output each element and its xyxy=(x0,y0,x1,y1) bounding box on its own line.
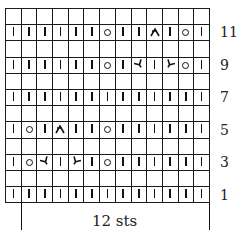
chart-cell xyxy=(194,154,210,170)
knit-stitch-icon xyxy=(75,27,77,36)
chart-cell xyxy=(162,154,178,170)
chart-cell xyxy=(21,89,37,105)
chart-cell xyxy=(53,73,69,89)
double-decrease-icon xyxy=(150,27,160,40)
knit-stitch-icon xyxy=(60,157,62,166)
knit-stitch-icon xyxy=(91,92,93,101)
chart-cell xyxy=(178,138,194,154)
knit-stitch-icon xyxy=(201,189,203,198)
row-number-label: 5 xyxy=(220,122,229,138)
chart-cell xyxy=(162,89,178,105)
chart-cell xyxy=(115,41,131,57)
chart-cell xyxy=(194,138,210,154)
chart-row xyxy=(6,138,210,154)
knit-stitch-icon xyxy=(201,157,203,166)
chart-cell xyxy=(6,106,22,122)
knit-stitch-icon xyxy=(60,27,62,36)
k2tog-decrease-icon xyxy=(165,59,175,72)
chart-cell xyxy=(6,25,22,41)
chart-cell xyxy=(162,57,178,73)
knit-stitch-icon xyxy=(44,92,46,101)
knit-stitch-icon xyxy=(60,189,62,198)
chart-cell xyxy=(115,57,131,73)
chart-cell xyxy=(21,170,37,186)
knit-stitch-icon xyxy=(201,124,203,133)
knit-stitch-icon xyxy=(13,92,15,101)
chart-cell xyxy=(147,41,163,57)
chart-cell xyxy=(115,106,131,122)
knit-stitch-icon xyxy=(91,60,93,69)
knit-stitch-icon xyxy=(44,189,46,198)
knit-stitch-icon xyxy=(185,189,187,198)
chart-cell xyxy=(68,25,84,41)
chart-cell xyxy=(131,122,147,138)
ssk-decrease-icon xyxy=(40,156,50,169)
chart-row xyxy=(6,41,210,57)
chart-cell xyxy=(162,122,178,138)
knit-stitch-icon xyxy=(13,124,15,133)
knit-stitch-icon xyxy=(91,157,93,166)
knit-stitch-icon xyxy=(28,27,30,36)
chart-cell xyxy=(162,9,178,25)
chart-cell xyxy=(37,154,53,170)
chart-row xyxy=(6,25,210,41)
row-number-label: 11 xyxy=(220,24,237,40)
chart-cell xyxy=(115,154,131,170)
knit-stitch-icon xyxy=(122,157,124,166)
chart-cell xyxy=(147,106,163,122)
chart-row xyxy=(6,73,210,89)
chart-cell xyxy=(194,25,210,41)
chart-cell xyxy=(6,154,22,170)
yarn-over-icon xyxy=(182,62,189,69)
chart-cell xyxy=(147,89,163,105)
chart-cell xyxy=(53,154,69,170)
knit-stitch-icon xyxy=(138,92,140,101)
chart-cell xyxy=(84,73,100,89)
yarn-over-icon xyxy=(104,62,111,69)
row-number-label: 3 xyxy=(220,154,229,170)
chart-cell xyxy=(131,73,147,89)
chart-cell xyxy=(178,41,194,57)
chart-row xyxy=(6,122,210,138)
chart-cell xyxy=(194,187,210,203)
knit-stitch-icon xyxy=(13,27,15,36)
chart-cell xyxy=(84,89,100,105)
chart-cell xyxy=(6,9,22,25)
chart-cell xyxy=(131,187,147,203)
chart-cell xyxy=(178,106,194,122)
chart-cell xyxy=(53,187,69,203)
chart-cell xyxy=(21,187,37,203)
chart-cell xyxy=(84,57,100,73)
knit-stitch-icon xyxy=(75,189,77,198)
knit-stitch-icon xyxy=(28,189,30,198)
chart-cell xyxy=(37,9,53,25)
chart-cell xyxy=(147,187,163,203)
knit-stitch-icon xyxy=(138,124,140,133)
knit-stitch-icon xyxy=(107,92,109,101)
chart-cell xyxy=(21,9,37,25)
chart-cell xyxy=(131,89,147,105)
knit-stitch-icon xyxy=(44,60,46,69)
chart-cell xyxy=(115,73,131,89)
knit-stitch-icon xyxy=(28,92,30,101)
knit-stitch-icon xyxy=(60,92,62,101)
repeat-bracket-left xyxy=(21,203,22,230)
chart-cell xyxy=(84,170,100,186)
chart-cell xyxy=(21,122,37,138)
chart-row xyxy=(6,9,210,25)
chart-row xyxy=(6,187,210,203)
chart-cell xyxy=(21,73,37,89)
knit-stitch-icon xyxy=(201,60,203,69)
chart-cell xyxy=(68,106,84,122)
chart-row xyxy=(6,57,210,73)
knit-stitch-icon xyxy=(169,157,171,166)
knit-stitch-icon xyxy=(154,92,156,101)
chart-row xyxy=(6,106,210,122)
chart-cell xyxy=(147,57,163,73)
knit-stitch-icon xyxy=(75,92,77,101)
chart-cell xyxy=(68,138,84,154)
chart-cell xyxy=(147,138,163,154)
yarn-over-icon xyxy=(26,159,33,166)
chart-cell xyxy=(162,170,178,186)
chart-cell xyxy=(53,89,69,105)
